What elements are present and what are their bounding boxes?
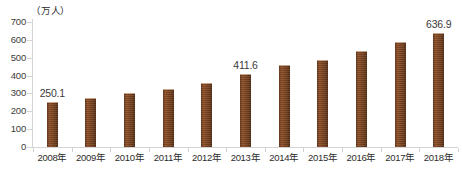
bar[interactable]	[433, 33, 444, 147]
bar[interactable]	[279, 65, 290, 148]
y-axis-tick-label-text: 700	[0, 17, 26, 26]
bar-top-edge	[395, 42, 406, 43]
bar-value-label: 250.1	[22, 88, 82, 99]
y-axis-tick-label-text: 100	[0, 124, 26, 133]
bar[interactable]	[395, 42, 406, 147]
x-axis-tick-label: 2010年	[110, 152, 149, 163]
x-axis-tick-label: 2017年	[381, 152, 420, 163]
y-axis-tick-label-text: 500	[0, 53, 26, 62]
y-axis-tick	[27, 40, 32, 41]
x-axis-tick-label: 2013年	[226, 152, 265, 163]
x-axis-tick-label: 2009年	[72, 152, 111, 163]
bar-value-label: 411.6	[216, 60, 276, 71]
y-axis-tick	[27, 129, 32, 130]
plot-area	[33, 22, 458, 147]
bar[interactable]	[85, 98, 96, 147]
y-axis-unit-label: （万人）	[31, 3, 70, 17]
bar[interactable]	[47, 102, 58, 147]
y-axis-tick-label-text: 400	[0, 71, 26, 80]
bar-top-edge	[433, 33, 444, 34]
bar[interactable]	[124, 93, 135, 147]
y-axis-tick	[27, 76, 32, 77]
x-axis-tick-label: 2016年	[342, 152, 381, 163]
bar-top-edge	[279, 65, 290, 66]
x-axis-tick	[458, 148, 459, 152]
x-axis-tick-label: 2008年	[33, 152, 72, 163]
bar-top-edge	[356, 51, 367, 52]
x-axis-tick-label: 2018年	[419, 152, 458, 163]
figure-caption	[0, 173, 462, 180]
bar-top-edge	[163, 89, 174, 90]
x-axis-tick-label: 2014年	[265, 152, 304, 163]
bar-top-edge	[317, 60, 328, 61]
y-axis-tick-label: 400	[0, 71, 26, 80]
bar-top-edge	[124, 93, 135, 94]
x-axis-tick-label: 2015年	[303, 152, 342, 163]
y-axis-tick-label-text: 200	[0, 106, 26, 115]
bar[interactable]	[317, 60, 328, 148]
y-axis-tick-label-text: 600	[0, 35, 26, 44]
bar-value-label: 636.9	[409, 19, 462, 30]
y-axis-tick-label: 0	[0, 142, 26, 151]
y-axis-tick-label: 700	[0, 17, 26, 26]
bar-chart: （万人） 0100200300400500600700 250.1411.663…	[0, 0, 462, 180]
bar-top-edge	[85, 98, 96, 99]
y-axis-tick-label: 100	[0, 124, 26, 133]
x-axis-tick-label: 2011年	[149, 152, 188, 163]
x-axis-line	[32, 147, 458, 148]
y-axis-tick-label-text: 0	[0, 142, 26, 151]
y-axis-tick-label: 600	[0, 35, 26, 44]
bar-top-edge	[47, 102, 58, 103]
bar-top-edge	[201, 83, 212, 84]
bar-top-edge	[240, 74, 251, 75]
bar[interactable]	[240, 74, 251, 148]
y-axis-tick-label: 200	[0, 106, 26, 115]
y-axis-tick	[27, 111, 32, 112]
y-axis-tick	[27, 22, 32, 23]
y-axis-tick	[27, 58, 32, 59]
x-axis-tick-label: 2012年	[188, 152, 227, 163]
bar[interactable]	[201, 83, 212, 147]
bar[interactable]	[356, 51, 367, 147]
y-axis-tick-label: 500	[0, 53, 26, 62]
bar[interactable]	[163, 89, 174, 147]
